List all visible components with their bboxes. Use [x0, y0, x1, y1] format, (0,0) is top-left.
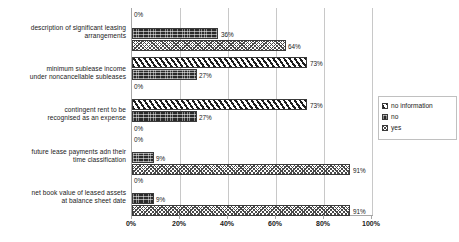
category-label-1-line1: minimum sublease income [4, 65, 126, 73]
xtick-label-40: 40% [207, 220, 247, 227]
xtick-mark-80 [323, 215, 324, 219]
xtick-label-60: 60% [255, 220, 295, 227]
bar-value-2-no: 27% [199, 114, 212, 121]
legend: no information no yes [378, 96, 457, 140]
bar-value-0-no-information: 0% [134, 11, 143, 18]
xtick-label-20: 20% [159, 220, 199, 227]
legend-swatch-no [382, 114, 388, 120]
bar-0-yes [132, 40, 286, 51]
xtick-label-100: 100% [351, 220, 391, 227]
bar-row-4-yes: 91% [132, 205, 373, 216]
category-label-0-line2: arrangements [4, 32, 126, 40]
bar-value-1-no-information: 73% [310, 60, 323, 67]
legend-item-no-information[interactable]: no information [382, 102, 454, 109]
bar-row-1-no-information: 73% [132, 57, 373, 68]
category-label-1-line2: under noncancellable subleases [4, 73, 126, 81]
bar-value-2-yes: 0% [134, 125, 143, 132]
bar-group-4: 0% 9% 91% [132, 181, 373, 217]
bar-row-4-no: 9% [132, 193, 373, 204]
category-label-3-line1: future lease payments adn their [4, 148, 126, 156]
xtick-label-80: 80% [303, 220, 343, 227]
legend-swatch-yes [382, 125, 388, 131]
category-label-2-line1: contingent rent to be [4, 106, 126, 114]
legend-label-no-information: no information [391, 102, 433, 109]
plot-area: 0% 36% 64% 73% 27% 0% [131, 8, 373, 216]
category-label-4: net book value of leased assets at balan… [4, 189, 126, 206]
bar-value-3-no: 9% [156, 155, 165, 162]
legend-item-yes[interactable]: yes [382, 124, 454, 131]
legend-item-no[interactable]: no [382, 113, 454, 120]
bar-3-no [132, 152, 154, 163]
bar-value-1-no: 27% [199, 72, 212, 79]
xtick-mark-100 [371, 215, 372, 219]
bar-row-1-no: 27% [132, 69, 373, 80]
bar-group-1: 73% 27% 0% [132, 57, 373, 93]
bar-value-2-no-information: 73% [310, 102, 323, 109]
bar-row-4-no-information: 0% [132, 181, 373, 192]
category-label-4-line1: net book value of leased assets [4, 189, 126, 197]
bar-value-4-no-information: 0% [134, 177, 143, 184]
bar-value-4-no: 9% [156, 196, 165, 203]
bar-chart: description of significant leasing arran… [0, 0, 459, 242]
bar-group-0: 0% 36% 64% [132, 16, 373, 52]
bar-row-2-no: 27% [132, 111, 373, 122]
legend-label-no: no [391, 113, 398, 120]
bar-row-3-no: 9% [132, 152, 373, 163]
bar-3-yes [132, 164, 350, 175]
category-label-4-line2: at balance sheet date [4, 197, 126, 205]
bar-4-no [132, 193, 154, 204]
bar-2-no-information [132, 99, 307, 110]
bar-1-no-information [132, 57, 307, 68]
bar-row-0-no-information: 0% [132, 16, 373, 27]
bar-group-3: 0% 9% 91% [132, 140, 373, 176]
bar-4-yes [132, 205, 350, 216]
xtick-mark-40 [227, 215, 228, 219]
bar-value-3-no-information: 0% [134, 136, 143, 143]
category-label-2: contingent rent to be recognised as an e… [4, 106, 126, 123]
bar-row-2-no-information: 73% [132, 99, 373, 110]
bar-value-1-yes: 0% [134, 83, 143, 90]
bar-0-no [132, 28, 218, 39]
xtick-label-0: 0% [111, 220, 151, 227]
bar-row-3-yes: 91% [132, 164, 373, 175]
legend-label-yes: yes [391, 124, 401, 131]
legend-swatch-no-information [382, 103, 388, 109]
bar-row-1-yes: 0% [132, 81, 373, 92]
bar-2-no [132, 111, 197, 122]
category-label-0: description of significant leasing arran… [4, 24, 126, 41]
bar-value-0-no: 36% [221, 31, 234, 38]
category-label-3: future lease payments adn their time cla… [4, 148, 126, 165]
xtick-mark-20 [179, 215, 180, 219]
category-label-1: minimum sublease income under noncancell… [4, 65, 126, 82]
category-label-2-line2: recognised as an expense [4, 114, 126, 122]
bar-value-4-yes: 91% [353, 208, 366, 215]
bar-row-2-yes: 0% [132, 123, 373, 134]
category-label-3-line2: time classification [4, 156, 126, 164]
category-label-0-line1: description of significant leasing [4, 24, 126, 32]
xtick-mark-0 [131, 215, 132, 219]
bar-row-3-no-information: 0% [132, 140, 373, 151]
bar-1-no [132, 69, 197, 80]
xtick-mark-60 [275, 215, 276, 219]
bar-group-2: 73% 27% 0% [132, 99, 373, 135]
bar-row-0-yes: 64% [132, 40, 373, 51]
bar-row-0-no: 36% [132, 28, 373, 39]
bar-value-0-yes: 64% [288, 43, 301, 50]
bar-value-3-yes: 91% [353, 167, 366, 174]
